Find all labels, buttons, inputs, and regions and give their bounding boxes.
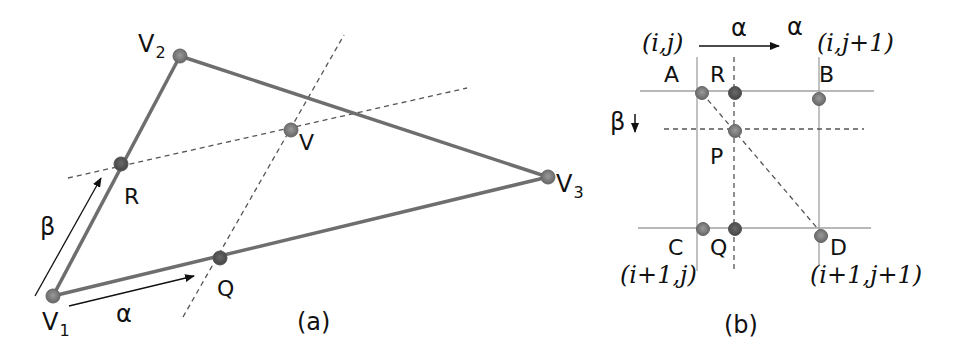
vertex-v1-node xyxy=(46,289,60,303)
beta-label-b: β xyxy=(610,108,625,136)
vertex-v3-node xyxy=(541,170,555,184)
panel-b-caption: (b) xyxy=(724,311,758,339)
index-bottom-left: (i+1,j) xyxy=(620,261,697,289)
alpha-label: α xyxy=(116,300,132,328)
panel-a: V2 V1 V3 R Q V β α (a) xyxy=(35,30,584,340)
index-top-right: (i,j+1) xyxy=(817,29,894,57)
point-r-node xyxy=(114,157,128,171)
vertex-v2-node xyxy=(173,49,187,63)
point-p-label: P xyxy=(710,144,723,169)
point-r-label: R xyxy=(124,184,139,209)
edge-v2-v3 xyxy=(180,56,548,177)
point-q-label-b: Q xyxy=(710,235,727,260)
index-bottom-right: (i+1,j+1) xyxy=(810,261,922,289)
point-b-node xyxy=(813,93,826,106)
vertex-v3-label: V3 xyxy=(556,170,584,202)
point-a-label: A xyxy=(664,62,679,87)
point-d-node xyxy=(815,230,828,243)
point-r-node-b xyxy=(729,87,742,100)
alpha-end-label-b: α xyxy=(787,13,803,41)
point-c-node xyxy=(697,223,710,236)
vertex-v1-label: V1 xyxy=(42,308,70,340)
point-c-label: C xyxy=(668,235,683,260)
panel-a-caption: (a) xyxy=(297,308,330,336)
index-top-left: (i,j) xyxy=(642,29,683,57)
point-v-label: V xyxy=(299,130,314,155)
alpha-label-b: α xyxy=(731,14,747,42)
point-q-node xyxy=(213,251,227,265)
point-q-label: Q xyxy=(217,276,234,301)
beta-label: β xyxy=(40,213,55,241)
point-p-node xyxy=(729,125,742,138)
point-v-node xyxy=(284,123,298,137)
point-r-label-b: R xyxy=(710,62,725,87)
point-a-node xyxy=(696,87,709,100)
point-q-node-b xyxy=(729,223,742,236)
point-b-label: B xyxy=(819,62,834,87)
figure-canvas: V2 V1 V3 R Q V β α (a) (i,j) (i,j+1) xyxy=(0,0,959,360)
edge-v1-v2 xyxy=(53,56,180,296)
dashed-line-qv xyxy=(183,35,344,317)
vertex-v2-label: V2 xyxy=(138,30,166,62)
point-d-label: D xyxy=(830,235,847,260)
panel-b: (i,j) (i,j+1) (i+1,j) (i+1,j+1) A R B P … xyxy=(610,13,922,339)
